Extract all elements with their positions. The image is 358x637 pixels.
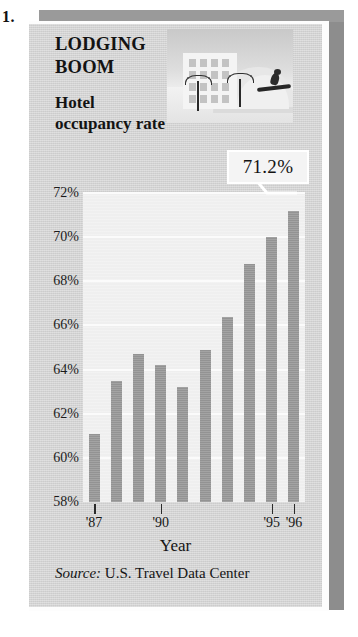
bar xyxy=(177,387,188,502)
bar xyxy=(89,434,100,502)
x-axis-tick xyxy=(294,504,296,514)
y-axis-tick-label: 58% xyxy=(53,494,79,510)
bar xyxy=(155,365,166,502)
y-axis: 72%70%68%66%64%62%60%58% xyxy=(29,193,79,502)
x-axis-tick-label: '90 xyxy=(152,515,169,531)
source-label: Source: xyxy=(55,565,101,581)
y-axis-tick-label: 72% xyxy=(53,185,79,201)
x-axis-tick-label: '96 xyxy=(286,515,303,531)
bar xyxy=(222,317,233,502)
bar xyxy=(288,211,299,502)
plot-area xyxy=(83,193,305,502)
bar xyxy=(111,381,122,502)
y-axis-tick-label: 68% xyxy=(53,273,79,289)
source-note: Source: U.S. Travel Data Center xyxy=(55,564,285,583)
y-axis-tick-label: 64% xyxy=(53,362,79,378)
x-axis-tick xyxy=(272,504,274,514)
x-axis-tick xyxy=(94,504,96,514)
bar xyxy=(133,354,144,502)
figure-card: LODGING BOOM Hotel occupancy rate 71.2% … xyxy=(29,24,322,607)
x-axis-tick-label: '87 xyxy=(86,515,103,531)
x-axis-title: Year xyxy=(29,536,322,556)
y-axis-tick-label: 60% xyxy=(53,450,79,466)
callout-box: 71.2% xyxy=(227,150,309,184)
x-axis-tick-label: '95 xyxy=(263,515,280,531)
bar xyxy=(244,264,255,502)
bar-chart: 72%70%68%66%64%62%60%58% '87'90'95'96 Ye… xyxy=(29,24,322,607)
x-axis-tick xyxy=(161,504,163,514)
y-axis-tick-label: 70% xyxy=(53,229,79,245)
source-text: U.S. Travel Data Center xyxy=(101,565,249,581)
x-axis-tick-labels: '87'90'95'96 xyxy=(83,515,305,535)
y-axis-tick-label: 62% xyxy=(53,406,79,422)
bar xyxy=(266,237,277,502)
y-axis-tick-label: 66% xyxy=(53,317,79,333)
bar xyxy=(200,350,211,502)
item-number: 1. xyxy=(2,8,15,26)
callout-value: 71.2% xyxy=(243,156,294,178)
